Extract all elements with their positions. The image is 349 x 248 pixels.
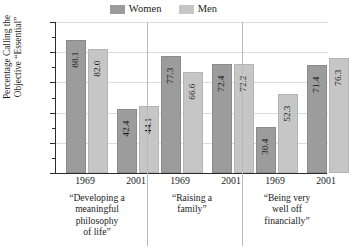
group-caption-line: of life” xyxy=(49,226,145,237)
bar-men: 82.0 xyxy=(88,49,108,173)
x-axis-year-label: 2001 xyxy=(113,176,159,186)
bar-value-label: 30.4 xyxy=(261,139,270,155)
x-axis-year-label: 1969 xyxy=(62,176,108,186)
group-separator xyxy=(147,22,148,246)
bar-value-label: 71.4 xyxy=(312,77,321,93)
x-axis-year-label: 2001 xyxy=(303,176,349,186)
bar-men: 76.3 xyxy=(329,58,349,173)
group-caption-line: philosophy xyxy=(49,215,145,226)
bar-value-label: 72.2 xyxy=(239,76,248,92)
group-caption-line: “Developing a xyxy=(49,192,145,203)
group-caption-line: family” xyxy=(144,203,240,214)
bar-men: 44.1 xyxy=(139,106,159,173)
bar-women: 42.4 xyxy=(117,109,137,173)
bar-value-label: 72.4 xyxy=(217,75,226,91)
bar-men: 72.2 xyxy=(234,64,254,173)
x-axis-year-label: 2001 xyxy=(208,176,254,186)
group-caption: “Being verywell offfinancially” xyxy=(239,192,335,226)
group-caption: “Raising afamily” xyxy=(144,192,240,215)
legend-entry-men: Men xyxy=(179,4,218,15)
bar-women: 72.4 xyxy=(212,64,232,173)
y-axis-minor-tick xyxy=(52,67,56,68)
y-axis-minor-tick xyxy=(52,37,56,38)
plot-area: 88.182.042.444.177.366.672.472.230.452.3… xyxy=(55,22,327,173)
bar-value-label: 42.4 xyxy=(122,121,131,137)
bar-value-label: 66.6 xyxy=(188,84,197,100)
y-axis-tick xyxy=(50,22,56,23)
legend-label-women: Women xyxy=(129,4,162,15)
y-axis-tick xyxy=(50,113,56,114)
bar-men: 52.3 xyxy=(278,94,298,173)
group-caption-line: “Raising a xyxy=(144,192,240,203)
x-axis-year-label: 1969 xyxy=(252,176,298,186)
bar-value-label: 52.3 xyxy=(283,106,292,122)
bar-value-label: 82.0 xyxy=(93,61,102,77)
x-axis-year-label: 1969 xyxy=(157,176,203,186)
legend-label-men: Men xyxy=(198,4,218,15)
bar-women: 88.1 xyxy=(66,40,86,173)
chart-legend: Women Men xyxy=(0,2,327,16)
y-axis-title-line-1: Percentage Calling the xyxy=(2,15,13,99)
legend-swatch-men-icon xyxy=(179,5,194,14)
group-caption: “Developing ameaningfulphilosophyof life… xyxy=(49,192,145,238)
gridline xyxy=(56,22,328,23)
y-axis-tick xyxy=(50,143,56,144)
y-axis-minor-tick xyxy=(52,98,56,99)
group-separator xyxy=(242,22,243,246)
group-caption-line: financially” xyxy=(239,215,335,226)
legend-swatch-women-icon xyxy=(110,5,125,14)
bar-women: 30.4 xyxy=(256,127,276,173)
bar-men: 66.6 xyxy=(183,72,203,173)
y-axis-minor-tick xyxy=(52,128,56,129)
group-caption-line: “Being very xyxy=(239,192,335,203)
bar-value-label: 88.1 xyxy=(71,52,80,68)
group-caption-line: well off xyxy=(239,203,335,214)
group-caption-line: meaningful xyxy=(49,203,145,214)
bar-value-label: 77.3 xyxy=(166,68,175,84)
legend-entry-women: Women xyxy=(110,4,162,15)
y-axis-minor-tick xyxy=(52,158,56,159)
bar-value-label: 44.1 xyxy=(144,118,153,134)
y-axis-tick xyxy=(50,52,56,53)
y-axis-tick xyxy=(50,82,56,83)
y-axis-title-line-2: Objective “Essential” xyxy=(13,17,24,97)
bar-women: 77.3 xyxy=(161,56,181,173)
bar-value-label: 76.3 xyxy=(334,69,343,85)
y-axis-title: Percentage Calling the Objective “Essent… xyxy=(0,0,26,131)
x-axis-line xyxy=(55,173,327,174)
bar-women: 71.4 xyxy=(307,65,327,173)
